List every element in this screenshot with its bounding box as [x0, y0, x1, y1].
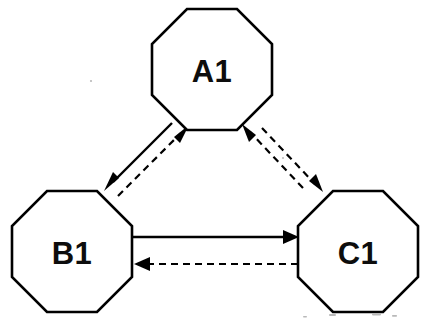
edge-a1-to-b1	[104, 123, 172, 191]
node-c1[interactable]: C1	[298, 191, 418, 312]
edge-b1-to-a1	[118, 125, 189, 196]
arrowhead-at-c1	[283, 230, 299, 244]
edge-a1-to-c1	[262, 128, 323, 192]
arrowhead-at-b1	[104, 172, 119, 191]
arrowhead-at-a1-from-c1	[242, 124, 256, 142]
node-c1-label: C1	[338, 236, 379, 271]
arrowhead-at-b1-from-c1	[134, 257, 150, 271]
node-a1-label: A1	[192, 54, 233, 89]
edge-b1-to-c1	[133, 230, 299, 244]
edge-c1-to-a1	[242, 124, 303, 188]
diagram-canvas: A1 B1 C1	[0, 0, 424, 322]
arrowhead-at-c1-from-a1	[309, 174, 323, 192]
diagram-svg: A1 B1 C1	[0, 0, 424, 322]
node-b1[interactable]: B1	[12, 191, 132, 312]
node-b1-label: B1	[52, 236, 93, 271]
node-a1[interactable]: A1	[152, 9, 272, 130]
edge-c1-to-b1	[134, 257, 298, 271]
